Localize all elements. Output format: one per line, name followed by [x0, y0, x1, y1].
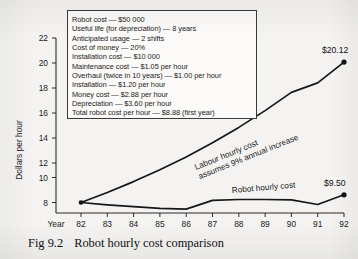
labour-end-point: [341, 60, 346, 65]
robot-cost-line: [81, 195, 344, 209]
y-tick-label: 16: [39, 108, 49, 118]
x-tick-label: 90: [287, 219, 297, 229]
x-axis-title: Year: [48, 219, 65, 229]
y-tick-label: 14: [39, 133, 49, 143]
x-axis-ticks: Year 82 83 84 85 86 87 88 89 90 91 92: [48, 213, 349, 229]
x-tick-label: 91: [313, 219, 323, 229]
assumption-line: Robot cost — $50 000: [72, 15, 256, 24]
figure-page: Robot cost — $50 000 Useful life (for de…: [0, 0, 358, 259]
y-axis-title: Dollars per hour: [14, 120, 24, 180]
robot-annotation-line1: Robot hourly cost: [231, 180, 296, 195]
assumption-line: Installation — $1.20 per hour: [72, 80, 256, 89]
y-tick-label: 8: [43, 198, 48, 208]
assumption-line: Depreciation — $3.60 per hour: [72, 99, 256, 108]
assumption-line: Total robot cost per hour — $8.88 (first…: [72, 108, 256, 117]
x-tick-label: 86: [182, 219, 192, 229]
labour-endpoint-label: $20.12: [322, 45, 349, 55]
assumption-line: Overhaul (twice in 10 years) — $1.00 per…: [72, 71, 256, 80]
assumption-line: Installation cost — $10 000: [72, 52, 256, 61]
x-tick-label: 89: [260, 219, 270, 229]
robot-endpoint-label: $9.50: [324, 178, 346, 188]
assumption-line: Useful life (for depreciation) — 8 years: [72, 24, 256, 33]
assumption-line: Money cost — $2.88 per hour: [72, 90, 256, 99]
caption-number: Fig 9.2: [28, 236, 63, 250]
x-tick-label: 84: [129, 219, 139, 229]
y-tick-label: 18: [39, 83, 49, 93]
x-tick-label: 82: [76, 219, 86, 229]
x-tick-label: 85: [155, 219, 165, 229]
y-tick-label: 20: [39, 58, 49, 68]
x-tick-label: 88: [234, 219, 244, 229]
figure-caption: Fig 9.2Robot hourly cost comparison: [28, 236, 224, 251]
x-tick-label: 92: [339, 219, 349, 229]
assumption-line: Maintenance cost — $1.05 per hour: [72, 62, 256, 71]
y-tick-label: 12: [39, 158, 49, 168]
y-tick-label: 22: [39, 33, 49, 43]
assumptions-box: Robot cost — $50 000 Useful life (for de…: [67, 10, 257, 119]
robot-end-point: [341, 192, 346, 197]
x-tick-label: 87: [208, 219, 218, 229]
y-axis-ticks: 22 20 18 16 14 12 10 8: [39, 33, 56, 208]
x-tick-label: 83: [103, 219, 113, 229]
assumption-line: Cost of money — 20%: [72, 43, 256, 52]
y-tick-label: 10: [39, 173, 49, 183]
caption-text: Robot hourly cost comparison: [74, 236, 224, 250]
robot-cost-annotation: Robot hourly cost: [231, 180, 296, 195]
labour-cost-annotation: Labour hourly cost assumes 9% annual inc…: [193, 123, 300, 181]
assumption-line: Anticipated usage — 2 shifts: [72, 34, 256, 43]
